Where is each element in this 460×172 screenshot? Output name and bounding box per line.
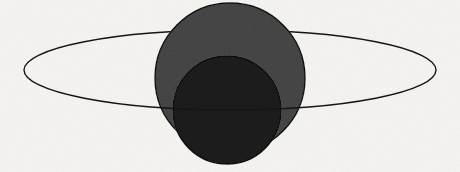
figure-canvas bbox=[0, 0, 460, 172]
ringed-sphere-figure bbox=[0, 0, 460, 172]
paper-grain-overlay bbox=[0, 0, 460, 172]
